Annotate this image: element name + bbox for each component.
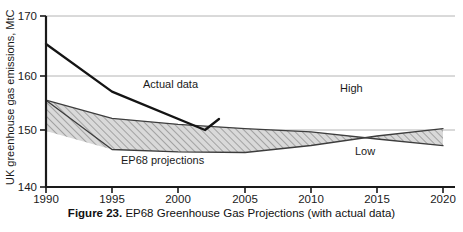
x-tick-label-2010: 2010 [298,193,324,205]
x-axis-ticks: 1990 1995 2000 2005 2010 2015 2020 [33,187,456,205]
x-tick-label-2005: 2005 [232,193,258,205]
figure-caption: Figure 23. EP68 Greenhouse Gas Projectio… [0,206,463,221]
gridlines [46,16,455,130]
x-tick-label-1995: 1995 [99,193,125,205]
annotation-low: Low [355,145,375,157]
chart-plot: 170 160 150 140 1990 1995 2000 2005 2010… [0,0,463,205]
y-axis-title: UK greenhouse gas emissions, MtC [4,9,16,185]
y-tick-label-140: 140 [18,181,37,193]
figure-number-label: Figure 23. [68,207,122,219]
annotation-high: High [340,82,363,94]
y-tick-label-160: 160 [18,70,37,82]
y-tick-label-150: 150 [18,124,37,136]
x-tick-label-1990: 1990 [33,193,59,205]
x-tick-label-2015: 2015 [364,193,390,205]
y-axis-ticks: 170 160 150 140 [18,10,46,193]
annotation-actual-data: Actual data [143,78,199,90]
figure-caption-text: EP68 Greenhouse Gas Projections (with ac… [122,207,395,219]
y-tick-label-170: 170 [18,10,37,22]
x-tick-label-2000: 2000 [165,193,191,205]
x-tick-label-2020: 2020 [430,193,456,205]
figure-container: 170 160 150 140 1990 1995 2000 2005 2010… [0,0,463,232]
annotation-ep68-projections: EP68 projections [121,154,205,166]
